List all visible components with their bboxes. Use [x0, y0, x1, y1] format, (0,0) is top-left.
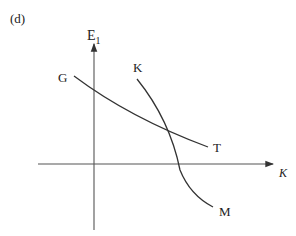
curve-km	[137, 79, 213, 207]
curve-km-start-label: K	[133, 61, 142, 74]
diagram-canvas	[0, 0, 296, 236]
curve-gt-end-label: T	[213, 141, 221, 154]
x-axis-label: K	[279, 167, 287, 179]
y-axis-label-sub: 1	[96, 35, 101, 46]
curve-km-end-label: M	[219, 205, 231, 218]
y-axis-label-main: E	[87, 28, 96, 43]
y-axis-label: E1	[87, 29, 101, 46]
curve-gt-start-label: G	[58, 71, 67, 84]
